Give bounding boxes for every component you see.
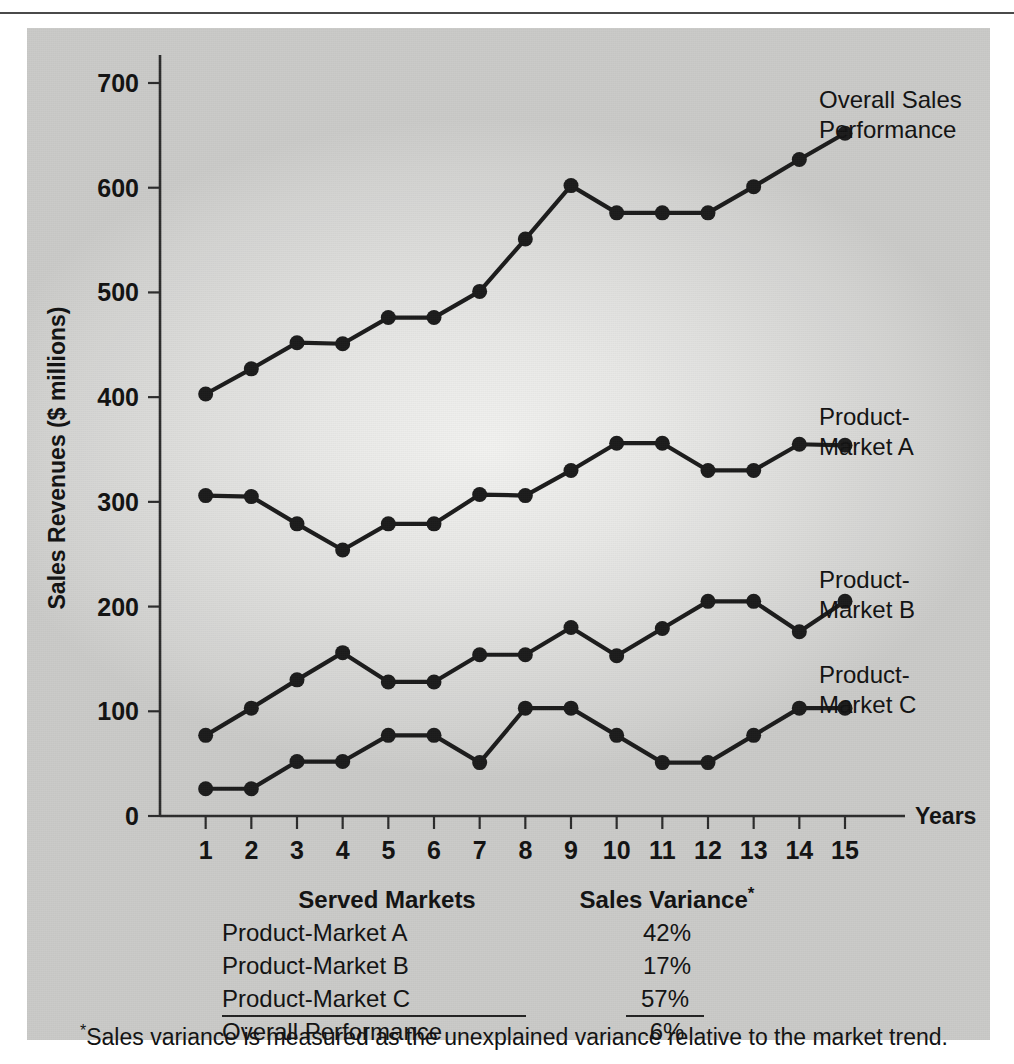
table-header-variance-text: Sales Variance: [580, 886, 748, 913]
series-line-3: [206, 708, 845, 789]
y-tick-label: 700: [97, 69, 139, 97]
data-point: [609, 436, 624, 451]
data-point: [746, 179, 761, 194]
data-point: [655, 755, 670, 770]
series-line-0: [206, 133, 845, 394]
data-point: [198, 387, 213, 402]
y-tick-label: 600: [97, 174, 139, 202]
x-tick-label: 14: [785, 836, 813, 864]
data-point: [335, 543, 350, 558]
data-point: [518, 232, 533, 247]
data-point: [472, 755, 487, 770]
x-axis-ticks: [206, 816, 845, 829]
data-point: [290, 754, 305, 769]
table-cell-variance: 17%: [552, 952, 782, 980]
data-point: [746, 594, 761, 609]
series-label-b-line2: Market B: [819, 596, 915, 623]
data-point: [655, 621, 670, 636]
series-label-c-line1: Product-: [819, 661, 910, 688]
series-label-b-line1: Product-: [819, 566, 910, 593]
series-label-overall-line2: Performance: [819, 116, 956, 143]
data-point: [381, 674, 396, 689]
data-point: [335, 645, 350, 660]
data-point: [701, 755, 716, 770]
x-tick-label: 5: [381, 836, 395, 864]
y-tick-label: 500: [97, 278, 139, 306]
data-point: [335, 754, 350, 769]
data-point: [655, 436, 670, 451]
x-tick-label: 13: [740, 836, 768, 864]
series-label-overall-line1: Overall Sales: [819, 86, 962, 113]
data-point: [564, 701, 579, 716]
data-point: [290, 335, 305, 350]
data-point: [746, 728, 761, 743]
axes-group: [160, 55, 905, 816]
x-tick-label: 3: [290, 836, 304, 864]
data-point: [472, 284, 487, 299]
data-point: [244, 781, 259, 796]
x-tick-label: 12: [694, 836, 722, 864]
y-tick-label: 200: [97, 593, 139, 621]
data-point: [564, 620, 579, 635]
x-tick-label: 8: [518, 836, 532, 864]
table-cell-variance: 57%: [626, 985, 704, 1017]
table-cell-market: Product-Market C: [222, 985, 526, 1017]
data-point: [518, 647, 533, 662]
y-tick-label: 300: [97, 488, 139, 516]
data-point: [701, 463, 716, 478]
data-point: [792, 437, 807, 452]
data-series-group: [198, 126, 852, 797]
data-point: [609, 728, 624, 743]
data-point: [244, 361, 259, 376]
x-axis-title: Years: [915, 803, 976, 829]
data-point: [609, 205, 624, 220]
series-label-a-line1: Product-: [819, 403, 910, 430]
table-row: Product-Market B 17%: [222, 952, 822, 985]
table-header-served-markets: Served Markets: [222, 886, 552, 914]
y-tick-label: 100: [97, 697, 139, 725]
data-point: [290, 516, 305, 531]
footnote-text: Sales variance is measured as the unexpl…: [86, 1024, 948, 1050]
data-point: [427, 728, 442, 743]
data-point: [792, 152, 807, 167]
x-tick-label: 2: [244, 836, 258, 864]
data-point: [427, 516, 442, 531]
data-point: [244, 701, 259, 716]
x-tick-label: 1: [199, 836, 213, 864]
footnote: *Sales variance is measured as the unexp…: [80, 1024, 980, 1051]
data-point: [427, 674, 442, 689]
data-point: [564, 463, 579, 478]
x-tick-label: 11: [649, 836, 676, 864]
data-point: [335, 336, 350, 351]
series-label-a-line2: Market A: [819, 433, 914, 460]
y-axis-tick-labels: 0100200300400500600700: [97, 69, 139, 830]
data-point: [244, 489, 259, 504]
footnote-marker-header: *: [748, 884, 755, 903]
x-tick-label: 10: [603, 836, 631, 864]
table-cell-variance: 42%: [552, 919, 782, 947]
data-point: [381, 310, 396, 325]
series-label-c-line2: Market C: [819, 691, 916, 718]
y-axis-title: Sales Revenues ($ millions): [44, 307, 70, 610]
data-point: [427, 310, 442, 325]
x-tick-label: 6: [427, 836, 441, 864]
table-cell-market: Product-Market A: [222, 919, 552, 947]
y-axis-ticks: [148, 83, 160, 816]
data-point: [701, 205, 716, 220]
figure-panel: 0100200300400500600700 12345678910111213…: [27, 28, 990, 1040]
x-tick-label: 9: [564, 836, 578, 864]
data-point: [701, 594, 716, 609]
series-end-labels: Overall Sales Performance Product- Marke…: [819, 86, 962, 718]
data-point: [381, 516, 396, 531]
data-point: [472, 487, 487, 502]
table-header-sales-variance: Sales Variance*: [552, 886, 782, 914]
data-point: [609, 648, 624, 663]
data-point: [518, 701, 533, 716]
data-point: [381, 728, 396, 743]
data-point: [518, 488, 533, 503]
x-axis-tick-labels: 123456789101112131415: [199, 836, 859, 864]
data-point: [290, 672, 305, 687]
table-header-row: Served Markets Sales Variance*: [222, 886, 822, 919]
x-tick-label: 4: [336, 836, 350, 864]
data-point: [655, 205, 670, 220]
